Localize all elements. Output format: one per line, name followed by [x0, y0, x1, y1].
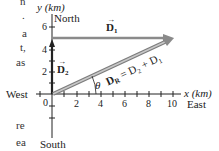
x-tick-10: 10 [167, 99, 177, 109]
x-axis-label: x (km) [184, 88, 212, 98]
x-tick-0: 0 [43, 98, 48, 108]
d1-label: → D1 [106, 22, 117, 36]
east-label: East [187, 99, 206, 109]
d2-label: → D2 [57, 64, 68, 78]
x-tick-4: 4 [98, 99, 103, 109]
x-tick-8: 8 [146, 99, 151, 109]
x-tick-6: 6 [122, 99, 127, 109]
theta-label: θ [95, 80, 100, 90]
north-label: North [54, 13, 80, 23]
y-tick-2: 2 [42, 67, 47, 77]
y-axis-label: y (km) [37, 2, 65, 12]
y-tick-6: 6 [42, 22, 47, 32]
south-label: South [40, 139, 66, 149]
x-tick-2: 2 [74, 99, 79, 109]
d2-arrowhead-icon [49, 39, 55, 47]
west-label: West [6, 89, 28, 99]
y-tick-4: 4 [42, 45, 47, 55]
